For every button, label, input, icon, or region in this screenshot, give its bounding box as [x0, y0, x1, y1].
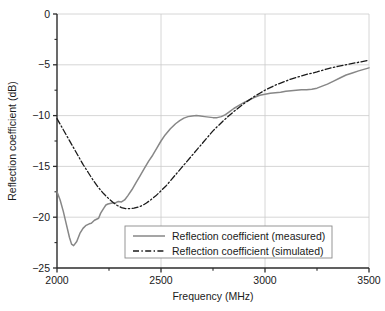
- y-axis-tick-label: −20: [32, 211, 50, 223]
- y-axis-tick-label: −5: [38, 58, 50, 70]
- series-line-simulated: [57, 60, 369, 208]
- series-line-measured: [57, 68, 369, 246]
- reflection-coefficient-chart: 0−5−10−15−20−252000250030003500Frequency…: [0, 0, 385, 311]
- x-axis-tick-label: 2000: [45, 274, 69, 286]
- y-axis-tick-label: −15: [32, 160, 50, 172]
- y-axis-tick-label: −25: [32, 262, 50, 274]
- x-axis-title: Frequency (MHz): [172, 290, 253, 302]
- y-axis-title: Reflection coefficient (dB): [6, 81, 18, 200]
- legend-label-measured: Reflection coefficient (measured): [172, 230, 325, 242]
- x-axis-tick-label: 3500: [357, 274, 381, 286]
- legend: Reflection coefficient (measured)Reflect…: [125, 226, 332, 258]
- y-axis-tick-label: 0: [44, 8, 50, 20]
- chart-canvas: 0−5−10−15−20−252000250030003500Frequency…: [0, 0, 385, 311]
- x-axis-tick-label: 2500: [149, 274, 173, 286]
- y-axis-tick-label: −10: [32, 109, 50, 121]
- x-axis-tick-label: 3000: [253, 274, 277, 286]
- legend-label-simulated: Reflection coefficient (simulated): [172, 245, 324, 257]
